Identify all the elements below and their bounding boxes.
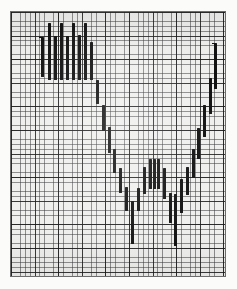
- price-bar: [157, 159, 160, 189]
- price-bar: [131, 201, 134, 244]
- price-bar: [214, 43, 217, 89]
- price-bar: [203, 105, 206, 137]
- bar-tick-mark: [212, 43, 215, 44]
- price-bar: [192, 149, 195, 178]
- price-bar: [125, 187, 128, 211]
- price-bar: [96, 80, 99, 104]
- price-bar: [113, 149, 116, 173]
- price-bar: [143, 167, 146, 194]
- price-bar: [169, 193, 172, 223]
- price-bar: [197, 128, 200, 159]
- price-bar: [149, 159, 152, 189]
- price-bar: [163, 168, 166, 199]
- price-bar: [119, 168, 122, 193]
- bar-tick-mark: [39, 37, 42, 38]
- price-bar: [72, 23, 75, 80]
- screenshot-root: [0, 0, 237, 289]
- price-bar: [54, 36, 57, 80]
- price-bar: [180, 179, 183, 213]
- price-bar: [78, 35, 81, 80]
- price-bar: [137, 188, 140, 211]
- price-bar: [84, 23, 87, 80]
- price-bar: [48, 23, 51, 80]
- price-bar: [174, 194, 177, 246]
- price-bar: [209, 78, 212, 114]
- price-bar: [186, 167, 189, 195]
- price-bar: [90, 42, 93, 80]
- graph-paper-plot-area: [10, 11, 226, 277]
- price-bar: [60, 23, 63, 80]
- price-bar: [41, 37, 44, 77]
- bar-series-layer: [11, 12, 225, 276]
- price-bar: [102, 105, 105, 131]
- price-bar: [66, 36, 69, 80]
- price-bar: [153, 159, 156, 189]
- price-bar: [108, 127, 111, 153]
